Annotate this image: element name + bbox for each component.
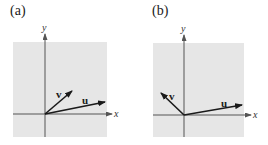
panel-a-x-label: x: [113, 108, 119, 119]
panel-a: x y v u: [13, 22, 119, 137]
vector-diagrams: x y v u x y v u: [0, 0, 268, 145]
panel-a-u-label: u: [82, 94, 88, 106]
panel-b-v-label: v: [169, 90, 175, 102]
panel-b-y-label: y: [180, 23, 186, 34]
panel-b: x y v u: [153, 23, 258, 137]
panel-b-background: [153, 43, 244, 137]
panel-b-u-label: u: [221, 97, 227, 109]
panel-a-v-label: v: [56, 88, 62, 100]
panel-a-y-label: y: [41, 22, 47, 33]
panel-b-x-label: x: [252, 109, 258, 120]
